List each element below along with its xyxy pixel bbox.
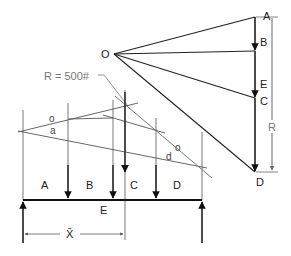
- string-cd: [115, 96, 212, 178]
- resultant-note: R = 500#: [44, 70, 90, 82]
- space-label-a: A: [41, 179, 49, 191]
- point-c-label: C: [260, 95, 268, 107]
- point-d-label: D: [256, 176, 264, 188]
- xbar-label: X̄: [66, 228, 74, 240]
- space-label-c: C: [130, 179, 138, 191]
- string-label-o-right: o: [175, 142, 181, 153]
- diagram-canvas: O A B E C D R R = 500# o a d o: [0, 0, 291, 256]
- point-b-label: B: [260, 36, 267, 48]
- space-label-d: D: [173, 179, 181, 191]
- funicular-polygon: [18, 90, 212, 240]
- string-label-o-left: o: [49, 113, 55, 124]
- space-label-e: E: [100, 204, 107, 216]
- point-e-label: E: [260, 78, 267, 90]
- string-oa: [18, 103, 138, 132]
- ray-oa: [114, 17, 255, 54]
- pole-label: O: [101, 48, 110, 60]
- force-polygon: [114, 17, 278, 172]
- ray-oc: [114, 54, 255, 98]
- point-a-label: A: [263, 10, 271, 22]
- beam-group: [23, 165, 202, 243]
- string-label-a: a: [50, 125, 56, 136]
- space-label-b: B: [86, 179, 93, 191]
- resultant-label: R: [268, 121, 276, 133]
- ray-ob: [114, 51, 255, 54]
- string-label-d: d: [166, 151, 172, 162]
